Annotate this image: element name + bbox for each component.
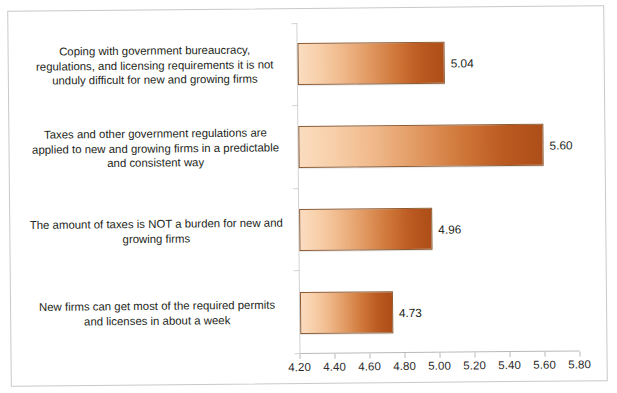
chart-border-frame: Coping with government bureaucracy, regu… — [7, 5, 608, 387]
bar-chart: Coping with government bureaucracy, regu… — [8, 6, 609, 388]
x-axis-tick — [580, 351, 581, 356]
y-axis-tick — [291, 23, 297, 24]
bar-series-item[interactable] — [298, 42, 445, 85]
category-label: New firms can get most of the required p… — [19, 298, 295, 330]
category-label-line: The amount of taxes is NOT a burden for … — [18, 216, 294, 233]
category-label-line: New firms can get most of the required p… — [19, 298, 295, 315]
x-axis-tick-label: 4.60 — [358, 360, 381, 372]
category-label-line: unduly difficult for new and growing fir… — [17, 71, 293, 88]
x-axis-tick — [545, 352, 546, 357]
category-label: The amount of taxes is NOT a burden for … — [18, 216, 294, 248]
x-axis-tick-label: 5.80 — [568, 358, 591, 370]
category-label: Coping with government bureaucracy, regu… — [17, 42, 293, 88]
x-axis-tick — [300, 354, 301, 359]
x-axis-tick-label: 4.40 — [323, 361, 346, 373]
x-axis-tick — [440, 353, 441, 358]
x-axis-tick-label: 5.20 — [463, 359, 486, 371]
bar-value-label: 4.73 — [399, 306, 422, 320]
x-axis-tick — [335, 354, 336, 359]
x-axis-tick-label: 5.40 — [498, 359, 521, 371]
category-label-line: and consistent way — [18, 154, 294, 171]
x-axis-tick — [405, 353, 406, 358]
bar-series-item[interactable] — [299, 208, 432, 251]
bar-series-item[interactable] — [300, 291, 393, 334]
bar-series-item[interactable] — [298, 124, 543, 168]
category-label-line: growing firms — [18, 230, 294, 247]
x-axis-tick — [475, 352, 476, 357]
x-axis-tick-label: 4.20 — [288, 361, 311, 373]
bar-value-label: 4.96 — [438, 223, 461, 237]
category-label-line: and licenses in about a week — [19, 312, 295, 329]
category-label-line: applied to new and growing firms in a pr… — [17, 140, 293, 157]
category-label: Taxes and other government regulations a… — [17, 125, 293, 171]
y-axis-tick — [293, 188, 299, 189]
bar-value-label: 5.60 — [549, 138, 572, 152]
scanned-chart-page: Coping with government bureaucracy, regu… — [0, 0, 617, 393]
x-axis-tick-label: 5.00 — [428, 360, 451, 372]
y-axis-tick — [292, 105, 298, 106]
x-axis-tick-label: 5.60 — [533, 359, 556, 371]
bar-value-label: 5.04 — [451, 56, 474, 70]
y-axis-tick — [294, 270, 300, 271]
x-axis-tick — [370, 353, 371, 358]
x-axis-tick — [510, 352, 511, 357]
x-axis-tick-label: 4.80 — [393, 360, 416, 372]
